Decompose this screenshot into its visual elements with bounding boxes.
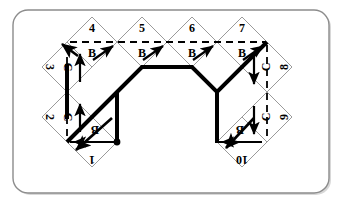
marker-cell-2: C [61, 113, 75, 122]
marker-cell-7: B [238, 46, 246, 60]
label-number-6: 6 [189, 21, 195, 35]
marker-cell-5: B [138, 46, 146, 60]
start-dot [114, 139, 121, 146]
marker-cell-9: C [259, 113, 273, 122]
marker-cell-4: B [88, 46, 96, 60]
label-number-8: 8 [277, 64, 291, 70]
diagram-canvas: 1 2 3 4 5 6 7 8 9 10 B C C B B B B C C B [0, 0, 341, 202]
label-number-7: 7 [239, 21, 245, 35]
label-number-2: 2 [43, 114, 57, 120]
marker-cell-8: C [259, 63, 273, 72]
marker-cell-3: C [61, 63, 75, 72]
label-number-9: 9 [277, 114, 291, 120]
label-number-3: 3 [43, 64, 57, 70]
marker-cell-1: B [91, 123, 99, 137]
label-number-10: 10 [236, 153, 248, 167]
label-number-1: 1 [89, 153, 95, 167]
label-number-4: 4 [89, 21, 95, 35]
folded-diamond-strip-figure: 1 2 3 4 5 6 7 8 9 10 B C C B B B B C C B [0, 0, 341, 202]
marker-cell-10: B [236, 123, 244, 137]
marker-cell-6: B [188, 46, 196, 60]
label-number-5: 5 [139, 21, 145, 35]
